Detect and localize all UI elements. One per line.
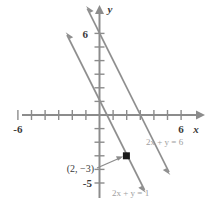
x-axis-arrowhead <box>196 111 205 120</box>
x-axis-name-label: x <box>192 123 199 135</box>
x-axis-left-tick-label: -6 <box>13 123 23 135</box>
x-axis-right-tick-label: 6 <box>178 123 184 135</box>
point-coordinate-label: (2, −3) <box>67 163 94 175</box>
axes-group <box>22 5 205 198</box>
line-label-eq1: 2x + y = 1 <box>112 188 149 198</box>
point-leader-arrowhead <box>116 156 123 161</box>
y-axis-bottom-tick-label: -5 <box>83 177 93 189</box>
point-marker-2-neg3 <box>123 152 130 159</box>
graph-canvas: -6 6 x 6 -5 y 2x + y = 6 2x + y = 1 (2, … <box>0 0 215 208</box>
y-axis-arrowhead <box>95 5 104 14</box>
y-axis-name-label: y <box>106 3 113 15</box>
coordinate-plane-figure: -6 6 x 6 -5 y 2x + y = 6 2x + y = 1 (2, … <box>0 0 215 208</box>
line-label-eq6: 2x + y = 6 <box>146 137 184 147</box>
annotation-point-group <box>97 152 130 168</box>
y-axis-top-tick-label: 6 <box>83 28 89 40</box>
